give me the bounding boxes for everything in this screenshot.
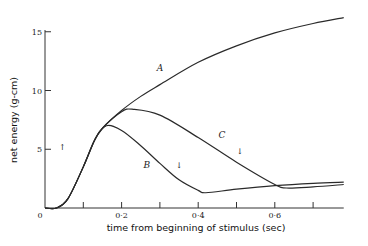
origin-label: 0 [37, 211, 42, 220]
curve-a [45, 18, 344, 209]
curve-c [45, 109, 344, 209]
axes: 0·20·40·6051015 [32, 28, 344, 220]
arrow-down-icon: ↓ [237, 147, 244, 156]
curves [45, 18, 344, 209]
chart-canvas: 0·20·40·6051015 ABC↑↓↓ time from beginni… [0, 0, 368, 246]
y-tick-label: 5 [37, 145, 42, 154]
curve-b [45, 125, 344, 208]
y-tick-label: 10 [32, 87, 42, 96]
x-axis-title: time from beginning of stimulus (sec) [107, 222, 286, 233]
curve-labels: ABC↑↓↓ [59, 63, 243, 171]
curve-label-c: C [219, 130, 226, 140]
x-tick-label: 0·6 [268, 211, 281, 220]
x-tick-label: 0·4 [192, 211, 205, 220]
x-tick-label: 0·2 [115, 211, 128, 220]
y-axis-title: net energy (g-cm) [8, 77, 19, 163]
curve-label-b: B [143, 160, 151, 170]
y-tick-label: 15 [32, 28, 42, 37]
arrow-up-icon: ↑ [59, 143, 66, 152]
arrow-down-icon: ↓ [176, 161, 183, 170]
curve-label-a: A [156, 63, 164, 73]
